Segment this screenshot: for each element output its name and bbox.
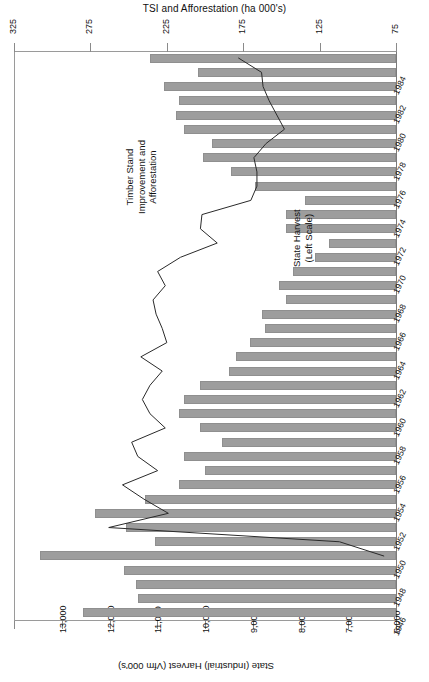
bottom-axis-title: State (Industrial) Harvest (Vfm 000's): [118, 661, 274, 672]
annotation-state-harvest: State Harvest (Left Scale): [291, 209, 314, 267]
top-axis-tick-label: 225: [161, 19, 171, 34]
chart-title: TSI and Afforestation (ha 000's): [0, 3, 429, 14]
tsi-polyline: [109, 58, 384, 556]
annotation-harvest-line1: State Harvest: [291, 209, 303, 267]
top-axis-tick-label: 75: [390, 24, 400, 34]
annotation-tsi-line1: Timber Stand: [124, 140, 136, 214]
plot-area: [14, 51, 397, 620]
top-axis-tick-label: 125: [314, 19, 324, 34]
top-axis-tick-label: 325: [8, 19, 18, 34]
annotation-harvest-line2: (Left Scale): [303, 209, 315, 267]
chart-canvas: TSI and Afforestation (ha 000's) 3252752…: [0, 0, 429, 682]
line-series-tsi-afforestation: [14, 51, 397, 620]
annotation-tsi-line3: Afforestation: [147, 140, 159, 214]
annotation-tsi: Timber Stand Improvement and Afforestati…: [124, 140, 159, 214]
top-axis-tick-label: 275: [84, 19, 94, 34]
bottom-axis-tick: [14, 621, 15, 629]
annotation-tsi-line2: Improvement and: [136, 140, 148, 214]
top-axis-tick-label: 175: [237, 19, 247, 34]
